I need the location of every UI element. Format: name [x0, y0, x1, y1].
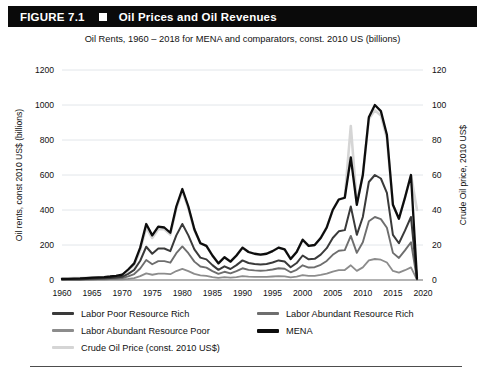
- x-axis-tick-label: 1980: [173, 288, 192, 298]
- x-axis-tick-label: 2000: [293, 288, 312, 298]
- y-axis-tick-label: 600: [40, 170, 55, 180]
- figure-subtitle: Oil Rents, 1960 – 2018 for MENA and comp…: [0, 34, 485, 44]
- legend-label: MENA: [286, 326, 313, 336]
- x-axis-tick-label: 2005: [323, 288, 342, 298]
- y2-axis-tick-label: 120: [432, 65, 447, 75]
- bottom-divider: [30, 366, 462, 367]
- x-axis-tick-label: 1990: [233, 288, 252, 298]
- series-line-labor-poor-resource-rich: [62, 175, 417, 279]
- x-axis-tick-label: 2015: [383, 288, 402, 298]
- x-axis-tick-label: 1995: [263, 288, 282, 298]
- y-axis-tick-label: 0: [49, 275, 54, 285]
- y2-axis-tick-label: 80: [432, 135, 442, 145]
- figure-container: FIGURE 7.1 Oil Prices and Oil Revenues O…: [0, 0, 485, 378]
- legend-item[interactable]: MENA: [257, 326, 447, 336]
- figure-number-label: FIGURE 7.1: [20, 11, 85, 23]
- legend-color-swatch: [257, 329, 279, 333]
- line-chart: 0200400600800100012000204060801001201960…: [0, 50, 485, 305]
- y-axis-tick-label: 800: [40, 135, 55, 145]
- y-axis-tick-label: 400: [40, 205, 55, 215]
- x-axis-tick-label: 1985: [203, 288, 222, 298]
- legend-item[interactable]: Labor Poor Resource Rich: [52, 309, 257, 319]
- legend-item[interactable]: Crude Oil Price (const. 2010 US$): [52, 343, 257, 353]
- x-axis-tick-label: 2020: [413, 288, 432, 298]
- chart-legend: Labor Poor Resource RichLabor Abundant R…: [52, 305, 447, 356]
- legend-color-swatch: [257, 312, 279, 315]
- series-line-labor-abundant-resource-rich: [62, 217, 417, 280]
- legend-color-swatch: [52, 329, 74, 332]
- legend-label: Labor Abundant Resource Poor: [81, 326, 210, 336]
- legend-label: Crude Oil Price (const. 2010 US$): [81, 343, 220, 353]
- legend-color-swatch: [52, 312, 74, 315]
- legend-item[interactable]: Labor Abundant Resource Rich: [257, 309, 447, 319]
- y2-axis-tick-label: 60: [432, 170, 442, 180]
- y-axis-tick-label: 1200: [35, 65, 54, 75]
- chart-area: 0200400600800100012000204060801001201960…: [0, 50, 485, 305]
- y-axis-tick-label: 1000: [35, 100, 54, 110]
- y-axis-title: Oil rents, const 2010 US$ (billions): [14, 109, 24, 241]
- legend-label: Labor Poor Resource Rich: [81, 309, 189, 319]
- x-axis-tick-label: 1975: [143, 288, 162, 298]
- figure-title: Oil Prices and Oil Revenues: [119, 11, 277, 23]
- legend-label: Labor Abundant Resource Rich: [286, 309, 414, 319]
- y2-axis-tick-label: 40: [432, 205, 442, 215]
- y-axis-tick-label: 200: [40, 240, 55, 250]
- x-axis-tick-label: 1960: [52, 288, 71, 298]
- x-axis-tick-label: 1970: [113, 288, 132, 298]
- legend-color-swatch: [52, 346, 74, 349]
- series-line-mena: [62, 105, 417, 279]
- x-axis-tick-label: 2010: [353, 288, 372, 298]
- filled-square-icon: [99, 13, 107, 21]
- y2-axis-tick-label: 20: [432, 240, 442, 250]
- x-axis-tick-label: 1965: [83, 288, 102, 298]
- y2-axis-tick-label: 100: [432, 100, 447, 110]
- y2-axis-title: Crude Oil price, 2010 US$: [458, 125, 468, 226]
- legend-item[interactable]: Labor Abundant Resource Poor: [52, 326, 257, 336]
- y2-axis-tick-label: 0: [432, 275, 437, 285]
- figure-header-bar: FIGURE 7.1 Oil Prices and Oil Revenues: [8, 6, 477, 27]
